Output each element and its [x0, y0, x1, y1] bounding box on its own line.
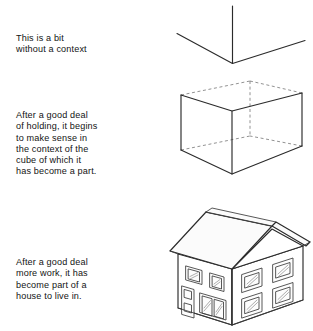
- cube-top-back-right-edge: [250, 81, 302, 93]
- figure-perspective-house: [158, 196, 313, 331]
- caption-text-first: This is a bit without a context: [16, 33, 156, 56]
- cube-top-front-edges: [181, 93, 302, 111]
- corner-right-edge: [233, 41, 306, 64]
- corner-left-edge: [177, 34, 233, 64]
- cube-hidden-bottom-left-edge: [181, 136, 250, 150]
- wireframe-cube-drawing: [160, 78, 313, 190]
- cube-bottom-front-edges: [181, 146, 302, 174]
- cube-top-back-left-edge: [181, 81, 250, 95]
- illustration-page: This is a bit without a context After a …: [0, 0, 313, 331]
- caption-text-second: After a good deal of holding, it begins …: [16, 110, 156, 178]
- house-door[interactable]: [182, 286, 194, 318]
- cube-hidden-bottom-right-edge: [250, 136, 302, 146]
- perspective-house-drawing: [158, 196, 313, 331]
- caption-text-third: After a good deal more work, it has beco…: [16, 257, 156, 302]
- figure-wireframe-cube: [160, 78, 313, 190]
- figure-corner-fragment: [160, 0, 313, 80]
- corner-fragment-drawing: [160, 0, 313, 80]
